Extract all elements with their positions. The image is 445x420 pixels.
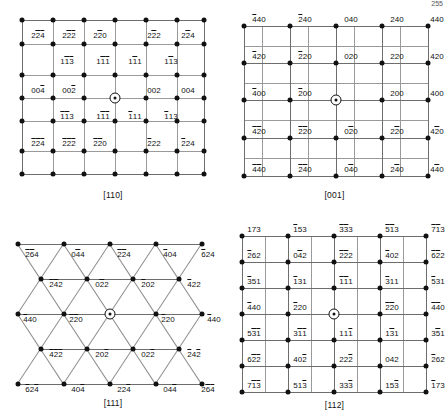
- lattice-node: [82, 149, 87, 154]
- lattice-node: [108, 382, 113, 387]
- lattice-node: [378, 338, 383, 343]
- lattice-node: [202, 119, 207, 124]
- miller-index-label: 440: [247, 302, 260, 312]
- lattice-node: [378, 312, 383, 317]
- lattice-node: [113, 18, 118, 23]
- lattice-node: [288, 136, 293, 141]
- lattice-node: [154, 382, 159, 387]
- miller-index-label: 111: [128, 111, 141, 121]
- panel-112-lattice: 1731533335137132620422224026223511311113…: [232, 216, 437, 396]
- lattice-node: [131, 277, 136, 282]
- lattice-node: [177, 277, 182, 282]
- lattice-node: [242, 174, 247, 179]
- lattice-line: [132, 243, 156, 279]
- miller-index-label: 153: [385, 380, 398, 390]
- miller-index-label: 111: [339, 276, 352, 286]
- lattice-node: [175, 149, 180, 154]
- miller-index-label: 200: [298, 88, 311, 98]
- lattice-node: [426, 98, 431, 103]
- lattice-node: [175, 18, 180, 23]
- miller-index-label: 333: [339, 380, 352, 390]
- miller-index-label: 402: [385, 250, 398, 260]
- lattice-node: [202, 172, 207, 177]
- lattice-node: [378, 234, 383, 239]
- lattice-node: [424, 312, 429, 317]
- miller-index-label: 531: [431, 276, 444, 286]
- miller-index-label: 311: [385, 276, 398, 286]
- lattice-node: [424, 286, 429, 291]
- lattice-line: [17, 348, 41, 384]
- miller-index-label: 440: [430, 15, 443, 24]
- miller-index-label: 202: [141, 279, 154, 289]
- miller-index-label: 420: [430, 52, 443, 61]
- lattice-node: [286, 286, 291, 291]
- diffraction-panel-112: 1731533335137132620422224026223511311113…: [232, 216, 437, 416]
- lattice-node: [202, 42, 207, 47]
- lattice-node: [202, 73, 207, 78]
- lattice-node: [424, 260, 429, 265]
- miller-index-label: 531: [247, 328, 260, 338]
- lattice-node: [20, 96, 25, 101]
- lattice-node: [380, 61, 385, 66]
- lattice-node: [424, 234, 429, 239]
- miller-index-label: 624: [201, 249, 214, 259]
- miller-index-label: 042: [385, 355, 398, 364]
- lattice-node: [144, 172, 149, 177]
- lattice-node: [242, 61, 247, 66]
- miller-index-label: 040: [344, 15, 357, 24]
- miller-index-label: 513: [385, 224, 398, 234]
- miller-index-label: 220: [298, 51, 311, 61]
- miller-index-label: 440: [23, 314, 36, 324]
- miller-index-label: 022: [95, 279, 108, 289]
- miller-index-label: 220: [69, 314, 82, 324]
- lattice-node: [240, 286, 245, 291]
- figure-page: 255 224222220222224113111111113004002002…: [0, 0, 445, 420]
- lattice-node: [334, 24, 339, 29]
- lattice-node: [51, 96, 56, 101]
- lattice-line: [178, 313, 202, 349]
- miller-index-label: 224: [31, 30, 44, 40]
- lattice-node: [334, 61, 339, 66]
- miller-index-label: 220: [390, 126, 403, 136]
- panel-110-lattice: 2242222202222241131111111130040020020041…: [8, 8, 218, 186]
- miller-index-label: 622: [247, 354, 260, 364]
- miller-index-label: 113: [164, 111, 177, 121]
- miller-index-label: 224: [117, 249, 130, 259]
- miller-index-label: 224: [31, 138, 44, 148]
- lattice-node: [175, 172, 180, 177]
- lattice-node: [113, 172, 118, 177]
- miller-index-label: 044: [71, 249, 84, 259]
- miller-index-label: 222: [339, 250, 352, 260]
- lattice-node: [424, 364, 429, 369]
- miller-index-label: 262: [431, 354, 444, 364]
- lattice-line: [155, 348, 179, 384]
- lattice-node: [131, 347, 136, 352]
- miller-index-label: 311: [293, 328, 306, 338]
- panel-112-caption: [112]: [232, 400, 437, 410]
- miller-index-label: 242: [49, 279, 62, 289]
- miller-index-label: 111: [96, 111, 109, 121]
- lattice-node: [82, 18, 87, 23]
- lattice-node: [332, 234, 337, 239]
- miller-index-label: 622: [431, 250, 444, 260]
- lattice-node: [286, 260, 291, 265]
- diffraction-panel-001: 4402400402404404202200202204204002002004…: [232, 8, 437, 208]
- lattice-node: [113, 149, 118, 154]
- miller-index-label: 440: [252, 164, 265, 174]
- miller-index-label: 202: [95, 349, 108, 359]
- diffraction-panel-110: 2242222202222241131111111130040020020041…: [8, 8, 218, 208]
- miller-index-label: 222: [147, 138, 160, 148]
- lattice-node: [288, 174, 293, 179]
- miller-index-label: 402: [293, 354, 306, 364]
- miller-index-label: 624: [25, 384, 38, 394]
- panel-001-caption: [001]: [232, 190, 437, 200]
- lattice-node: [39, 347, 44, 352]
- lattice-node: [240, 312, 245, 317]
- miller-index-label: 440: [431, 302, 444, 312]
- miller-index-label: 404: [71, 384, 84, 394]
- panel-110-caption: [110]: [8, 190, 218, 200]
- lattice-node: [154, 242, 159, 247]
- miller-index-label: 333: [339, 224, 352, 234]
- lattice-node: [378, 364, 383, 369]
- miller-index-label: 404: [163, 249, 176, 259]
